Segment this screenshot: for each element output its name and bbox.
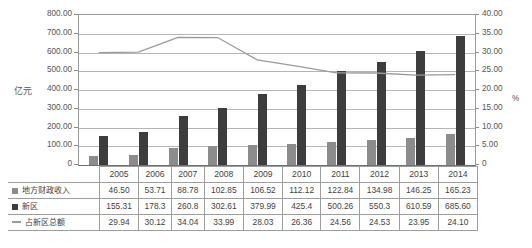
legend-label: 地方财政收入 xyxy=(22,184,70,197)
right-axis-tick-label: 30.00 xyxy=(482,48,528,56)
right-axis-tick-label: 10.00 xyxy=(482,123,528,131)
table-cell: 53.71 xyxy=(139,183,172,199)
table-row-header: 占新区总额 xyxy=(8,215,100,231)
table-cell: 34.04 xyxy=(171,215,204,231)
line-series-path xyxy=(99,37,455,75)
right-axis-tick-label: 40.00 xyxy=(482,10,528,18)
right-axis-tick-label: 35.00 xyxy=(482,29,528,37)
legend-label: 新区 xyxy=(22,200,38,213)
table-cell: 550.3 xyxy=(360,199,399,215)
legend-line-icon xyxy=(12,221,21,223)
table-cell: 146.25 xyxy=(399,183,438,199)
table-cell: 155.31 xyxy=(100,199,139,215)
table-cell: 33.99 xyxy=(204,215,243,231)
line-series-svg xyxy=(79,15,475,165)
chart-root: 亿元 % 0100.00200.00300.00400.00500.00600.… xyxy=(0,0,532,248)
table-cell: 30.12 xyxy=(139,215,172,231)
table-cell: 425.4 xyxy=(283,199,321,215)
table-cell: 178.3 xyxy=(139,199,172,215)
table-header-cell: 2013 xyxy=(399,167,438,183)
table-cell: 685.60 xyxy=(438,199,477,215)
data-table-wrapper: 2005200620072008200920102011201220132014… xyxy=(8,166,478,231)
table-cell: 24.53 xyxy=(360,215,399,231)
right-axis-tick-label: 25.00 xyxy=(482,66,528,74)
table-cell: 302.61 xyxy=(204,199,243,215)
table-row: 地方财政收入46.5053.7188.78102.85106.52112.121… xyxy=(8,183,478,199)
left-axis-tick-label: 400.00 xyxy=(26,85,72,93)
data-table: 2005200620072008200920102011201220132014… xyxy=(8,166,478,231)
right-axis-title: % xyxy=(512,94,519,103)
table-cell: 24.56 xyxy=(321,215,360,231)
chart-plot-area: 亿元 % 0100.00200.00300.00400.00500.00600.… xyxy=(0,0,532,178)
left-axis-tick-label: 600.00 xyxy=(26,48,72,56)
table-cell: 46.50 xyxy=(100,183,139,199)
table-cell: 26.36 xyxy=(283,215,321,231)
table-header-cell: 2006 xyxy=(139,167,172,183)
table-cell: 29.94 xyxy=(100,215,139,231)
table-row-header: 地方财政收入 xyxy=(8,183,100,199)
table-row-header: 新区 xyxy=(8,199,100,215)
table-cell: 106.52 xyxy=(243,183,282,199)
table-cell: 379.99 xyxy=(243,199,282,215)
table-header-row: 2005200620072008200920102011201220132014 xyxy=(8,167,478,183)
plot-frame xyxy=(78,14,476,166)
table-header-cell: 2014 xyxy=(438,167,477,183)
table-header-cell: 2005 xyxy=(100,167,139,183)
table-cell: 260.8 xyxy=(171,199,204,215)
legend-label: 占新区总额 xyxy=(25,216,65,229)
legend-square-icon xyxy=(12,188,18,194)
table-header-cell: 2009 xyxy=(243,167,282,183)
table-cell: 102.85 xyxy=(204,183,243,199)
left-axis-tick-label: 700.00 xyxy=(26,29,72,37)
legend-square-icon xyxy=(12,204,18,210)
table-cell: 88.78 xyxy=(171,183,204,199)
table-cell: 500.26 xyxy=(321,199,360,215)
right-axis-tick-label: 20.00 xyxy=(482,85,528,93)
right-axis-tick-label: 5.00 xyxy=(482,141,528,149)
table-cell: 134.98 xyxy=(360,183,399,199)
left-axis-tick-label: 100.00 xyxy=(26,141,72,149)
table-cell: 610.59 xyxy=(399,199,438,215)
right-axis-tick-label: 0 xyxy=(482,160,528,168)
table-cell: 112.12 xyxy=(283,183,321,199)
left-axis-tick-label: 200.00 xyxy=(26,123,72,131)
table-corner-cell xyxy=(8,167,100,183)
table-row: 新区155.31178.3260.8302.61379.99425.4500.2… xyxy=(8,199,478,215)
table-header-cell: 2007 xyxy=(171,167,204,183)
table-cell: 122.84 xyxy=(321,183,360,199)
table-header-cell: 2011 xyxy=(321,167,360,183)
left-axis-tick-label: 800.00 xyxy=(26,10,72,18)
right-axis-tick-label: 15.00 xyxy=(482,104,528,112)
table-cell: 23.95 xyxy=(399,215,438,231)
table-cell: 28.03 xyxy=(243,215,282,231)
left-axis-tick-label: 500.00 xyxy=(26,66,72,74)
table-cell: 24.10 xyxy=(438,215,477,231)
table-header-cell: 2010 xyxy=(283,167,321,183)
data-table-body: 2005200620072008200920102011201220132014… xyxy=(8,167,478,231)
table-row: 占新区总额29.9430.1234.0433.9928.0326.3624.56… xyxy=(8,215,478,231)
table-cell: 165.23 xyxy=(438,183,477,199)
table-header-cell: 2008 xyxy=(204,167,243,183)
left-axis-tick-label: 300.00 xyxy=(26,104,72,112)
table-header-cell: 2012 xyxy=(360,167,399,183)
